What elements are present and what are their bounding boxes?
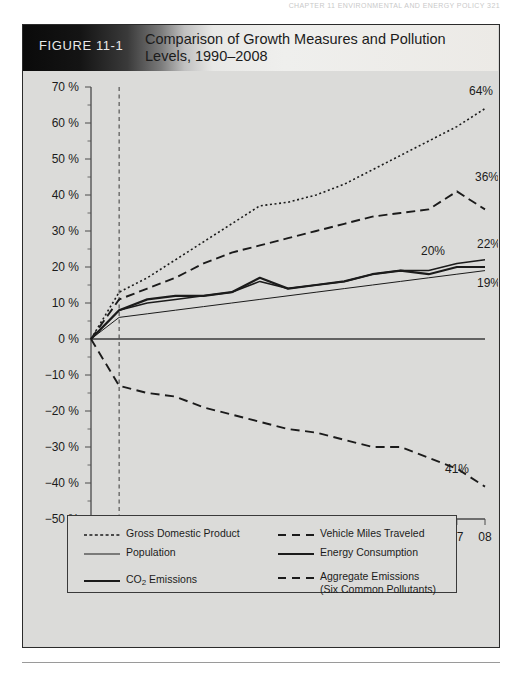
legend-item: Energy Consumption bbox=[276, 545, 451, 564]
figure-header-band: FIGURE 11-1 Comparison of Growth Measure… bbox=[23, 25, 498, 71]
legend-subscript: 2 bbox=[142, 578, 146, 587]
y-axis-ticks bbox=[85, 87, 91, 519]
legend-item-label: Energy Consumption bbox=[320, 545, 418, 559]
series-line bbox=[91, 271, 485, 339]
y-tick-label: 10 % bbox=[52, 296, 80, 310]
y-tick-label: −30 % bbox=[45, 440, 80, 454]
series-value-label: 20% bbox=[421, 244, 445, 258]
legend-item-label: CO2 Emissions bbox=[126, 572, 197, 590]
legend-swatch-line bbox=[276, 547, 316, 559]
legend-item-label-line2: (Six Common Pollutants) bbox=[320, 583, 436, 596]
y-tick-label: 0 % bbox=[58, 332, 79, 346]
y-tick-label: −40 % bbox=[45, 476, 80, 490]
series-line bbox=[91, 339, 485, 487]
x-tick-label: 08 bbox=[478, 530, 492, 544]
figure-number-label: FIGURE 11-1 bbox=[39, 38, 123, 53]
running-head: CHAPTER 11 ENVIRONMENTAL AND ENERGY POLI… bbox=[0, 0, 516, 12]
legend-swatch-line bbox=[276, 571, 316, 583]
y-tick-label: 20 % bbox=[52, 260, 80, 274]
chart-legend: Gross Domestic ProductPopulationCO2 Emis… bbox=[67, 515, 457, 593]
series-line bbox=[91, 109, 485, 339]
value-annotations: 64%36%22%20%19%41% bbox=[421, 84, 498, 476]
y-tick-label: −10 % bbox=[45, 368, 80, 382]
legend-line-icon bbox=[82, 526, 126, 540]
legend-item-label: Vehicle Miles Traveled bbox=[320, 526, 424, 540]
legend-column-left: Gross Domestic ProductPopulationCO2 Emis… bbox=[82, 526, 277, 591]
legend-item-label: Population bbox=[126, 545, 176, 559]
legend-item-label: Gross Domestic Product bbox=[126, 526, 240, 540]
series-value-label: 36% bbox=[475, 170, 498, 184]
y-tick-label: 50 % bbox=[52, 152, 80, 166]
y-tick-label: 30 % bbox=[52, 224, 80, 238]
legend-item: CO2 Emissions bbox=[82, 572, 277, 591]
legend-line-icon bbox=[276, 526, 320, 540]
series-value-label: 22% bbox=[477, 237, 498, 251]
legend-line-icon bbox=[276, 569, 320, 583]
y-tick-label: 70 % bbox=[52, 80, 80, 94]
legend-swatch-line bbox=[82, 547, 122, 559]
series-value-label: 64% bbox=[469, 84, 493, 98]
y-tick-label: 60 % bbox=[52, 116, 80, 130]
legend-item: Gross Domestic Product bbox=[82, 526, 277, 545]
figure-container: FIGURE 11-1 Comparison of Growth Measure… bbox=[22, 24, 500, 648]
legend-item-label: Aggregate Emissions(Six Common Pollutant… bbox=[320, 569, 436, 595]
figure-title: Comparison of Growth Measures and Pollut… bbox=[145, 31, 485, 65]
legend-line-icon bbox=[276, 545, 320, 559]
series-line bbox=[91, 191, 485, 339]
legend-item: Vehicle Miles Traveled bbox=[276, 526, 451, 545]
legend-line-icon bbox=[82, 572, 126, 586]
legend-swatch-line bbox=[82, 528, 122, 540]
legend-item: Population bbox=[82, 545, 277, 564]
data-series-group bbox=[91, 109, 485, 487]
legend-swatch-line bbox=[82, 574, 122, 586]
legend-swatch-line bbox=[276, 528, 316, 540]
series-value-label: 41% bbox=[445, 462, 469, 476]
legend-item: Aggregate Emissions(Six Common Pollutant… bbox=[276, 569, 451, 597]
legend-line-icon bbox=[82, 545, 126, 559]
y-tick-label: 40 % bbox=[52, 188, 80, 202]
y-axis-tick-labels: 70 %60 %50 %40 %30 %20 %10 %0 %−10 %−20 … bbox=[45, 80, 80, 526]
y-tick-label: −20 % bbox=[45, 404, 80, 418]
page-bottom-rule bbox=[22, 662, 500, 663]
series-value-label: 19% bbox=[477, 276, 498, 290]
legend-column-right: Vehicle Miles TraveledEnergy Consumption… bbox=[276, 526, 451, 597]
